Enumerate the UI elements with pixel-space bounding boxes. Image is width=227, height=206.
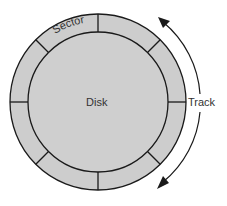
disk-label: Disk [86, 96, 108, 108]
track-label: Track [188, 96, 216, 108]
disk-diagram: Sector Disk Track [0, 0, 227, 206]
